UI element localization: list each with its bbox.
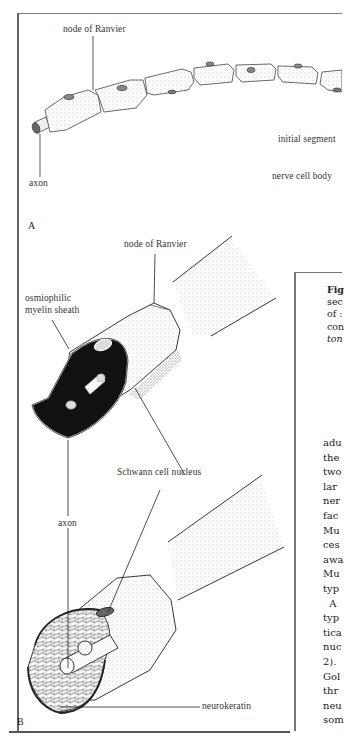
body-line: two	[323, 466, 342, 477]
label-b-node-of-ranvier: node of Ranvier	[124, 239, 187, 249]
panel-b-myelin-leader	[52, 320, 69, 349]
panel-a-nerve-fiber	[31, 62, 342, 134]
figure-caption-fragment: Fig sec of : con ton	[327, 284, 344, 345]
body-line: Gol	[323, 671, 340, 682]
body-line: thr	[323, 685, 338, 696]
body-line: 2).	[323, 656, 336, 667]
label-b-myelin-line1: osmiophilic	[25, 293, 71, 303]
body-line: neu	[323, 700, 342, 711]
body-line: typ	[323, 583, 339, 594]
body-line: fac	[323, 510, 338, 521]
body-line: ces	[323, 539, 340, 550]
caption-line-2: sec	[327, 296, 343, 307]
label-a-initial-segment: initial segment	[278, 134, 336, 144]
panel-b-node-leader	[154, 254, 155, 303]
body-line: ner	[323, 495, 340, 506]
body-line: A	[323, 598, 337, 609]
panel-b-letter: B	[17, 716, 24, 727]
panel-b-upper-segment	[32, 236, 276, 438]
body-line: tica	[323, 627, 342, 638]
body-line: lar	[323, 481, 337, 492]
body-line: adu	[323, 437, 342, 448]
label-b-neurokeratin: neurokeratin	[202, 701, 251, 711]
caption-line-4: con	[327, 321, 344, 332]
panel-b-lower-segment	[28, 475, 285, 713]
panel-a-letter: A	[28, 220, 35, 231]
label-a-node-of-ranvier: node of Ranvier	[63, 24, 126, 34]
label-b-axon: axon	[58, 518, 77, 528]
caption-line-5: ton	[327, 333, 343, 344]
panel-b-schwann-leader-upper	[135, 388, 185, 475]
label-b-schwann-cell-nucleus: Schwann cell nucleus	[117, 467, 201, 477]
label-b-myelin-line2: myelin sheath	[25, 305, 79, 315]
body-line: nuc	[323, 641, 341, 652]
caption-line-1: Fig	[327, 284, 344, 295]
body-line: awa	[323, 554, 343, 565]
body-line: Mu	[323, 525, 340, 536]
body-line: the	[323, 452, 339, 463]
body-line: som	[323, 714, 344, 725]
label-a-nerve-cell-body: nerve cell body	[272, 171, 332, 181]
body-text-fragment: adu the two lar ner fac Mu ces awa Mu ty…	[323, 436, 344, 728]
body-line: Mu	[323, 568, 340, 579]
caption-line-3: of :	[327, 308, 342, 319]
body-line: typ	[323, 612, 339, 623]
label-a-axon: axon	[29, 178, 48, 188]
